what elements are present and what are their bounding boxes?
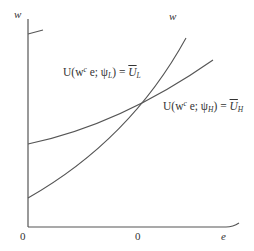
curve-label-low-prefix: U(w <box>63 66 83 78</box>
x-axis <box>28 223 239 227</box>
curve-label-high-rhs: U <box>230 100 238 112</box>
y-axis-label-right: w <box>169 11 176 22</box>
curve-label-high-mid: e; ψ <box>187 100 208 112</box>
curve-label-low-rhs-sub: L <box>137 71 141 80</box>
y-axis-label-left: w <box>14 9 21 20</box>
y-axis-top-tick <box>28 30 43 34</box>
curve-label-low-type: U(wc e; ψL) = UL <box>63 66 141 80</box>
diagram-canvas <box>0 0 254 251</box>
curve-label-high-prefix: U(w <box>163 100 183 112</box>
curve-label-high-rhs-sub: H <box>238 105 243 114</box>
origin-label-right: 0 <box>135 231 141 242</box>
x-axis-label: e <box>221 231 226 242</box>
curve-label-low-mid: e; ψ <box>87 66 108 78</box>
curve-label-high-close: ) = <box>213 100 229 112</box>
origin-label-left: 0 <box>20 231 26 242</box>
curve-label-low-rhs: U <box>128 66 136 78</box>
curve-label-low-close: ) = <box>112 66 128 78</box>
curve-label-high-type: U(wc e; ψH) = UH <box>163 100 243 114</box>
curve-low-type <box>28 38 186 198</box>
indifference-curve-diagram: w w e 0 0 U(wc e; ψL) = UL U(wc e; ψH) =… <box>0 0 254 251</box>
